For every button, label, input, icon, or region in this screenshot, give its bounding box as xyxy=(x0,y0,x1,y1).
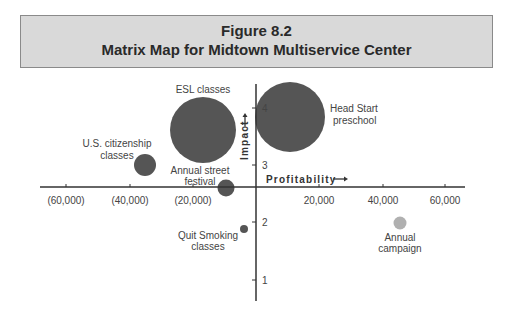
y-tick-label: 3 xyxy=(262,160,268,171)
x-tick-label: (60,000) xyxy=(47,195,84,206)
bubble-quit-smoking xyxy=(240,225,248,233)
x-tick-label: 40,000 xyxy=(368,195,399,206)
bubble-annual-campaign xyxy=(394,217,407,230)
y-tick-label: 4 xyxy=(262,103,268,114)
label-street-festival: Annual street xyxy=(171,165,230,176)
label-annual-campaign: campaign xyxy=(378,243,421,254)
label-esl: ESL classes xyxy=(176,84,231,95)
y-tick-label: 2 xyxy=(262,217,268,228)
label-head-start: preschool xyxy=(333,115,376,126)
x-tick-label: 20,000 xyxy=(304,195,335,206)
label-head-start: Head Start xyxy=(330,103,378,114)
label-quit-smoking: classes xyxy=(191,241,224,252)
bubble-esl xyxy=(170,97,236,163)
y-tick-label: 1 xyxy=(262,275,268,286)
label-quit-smoking: Quit Smoking xyxy=(178,230,238,241)
matrix-map-chart: (60,000) (40,000) (20,000) 20,000 40,000… xyxy=(0,0,516,316)
bubble-head-start xyxy=(255,82,325,152)
label-street-festival: festival xyxy=(184,176,215,187)
label-citizenship: U.S. citizenship xyxy=(83,138,152,149)
label-citizenship: classes xyxy=(100,150,133,161)
bubble-street-festival xyxy=(218,180,235,197)
label-annual-campaign: Annual xyxy=(384,232,415,243)
x-tick-label: (40,000) xyxy=(111,195,148,206)
bubble-citizenship xyxy=(134,154,156,176)
x-axis-title: Profitability xyxy=(266,174,337,185)
x-tick-label: 60,000 xyxy=(430,195,461,206)
x-tick-label: (20,000) xyxy=(174,195,211,206)
